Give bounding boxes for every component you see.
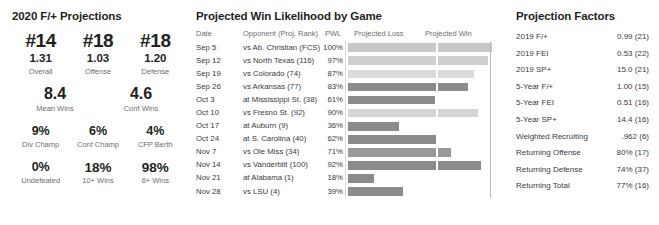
factor-label: 5-Year F/+ <box>516 82 553 91</box>
bar-segment-loss <box>348 135 436 144</box>
factor-value: .962 (6) <box>621 132 649 141</box>
bar-segment-loss <box>348 174 374 183</box>
win-likelihood-bar <box>348 83 490 92</box>
game-row[interactable]: Nov 7vs Ole Miss (34)71% <box>196 146 496 159</box>
odds-cell-cfp-berth: 4% CFP Berth <box>127 124 184 150</box>
bar-segment-win <box>438 83 468 92</box>
win-likelihood-title: Projected Win Likelihood by Game <box>196 10 496 22</box>
factor-value: 77% (16) <box>617 181 649 190</box>
factor-row: 2019 FEI0.53 (22) <box>516 47 649 64</box>
game-row[interactable]: Sep 26vs Arkansas (77)83% <box>196 80 496 93</box>
wins-cell-conf: 4.6 Conf Wins <box>98 84 184 114</box>
game-date: Sep 12 <box>196 56 221 65</box>
odds-value: 98% <box>127 160 184 175</box>
chart-axis-right <box>490 41 491 198</box>
bar-divider <box>436 56 438 65</box>
game-row[interactable]: Oct 3at Mississippi St. (38)61% <box>196 93 496 106</box>
game-date: Oct 3 <box>196 95 215 104</box>
game-pwl: 18% <box>306 173 343 182</box>
game-pwl: 97% <box>306 56 343 65</box>
game-date: Nov 28 <box>196 187 221 196</box>
game-date: Sep 26 <box>196 82 221 91</box>
bar-segment-loss <box>348 109 436 118</box>
game-row[interactable]: Oct 10vs Fresno St. (92)90% <box>196 106 496 119</box>
factor-value: 15.0 (21) <box>617 65 649 74</box>
rank-cell-offense: #18 1.03 Offense <box>69 31 126 77</box>
rank-value: #18 <box>69 31 126 51</box>
game-date: Nov 14 <box>196 160 221 169</box>
wins-row: 8.4 Mean Wins 4.6 Conf Wins <box>12 84 184 114</box>
game-opponent: vs North Texas (116) <box>243 56 314 65</box>
win-likelihood-bar <box>348 148 490 157</box>
wins-label: Conf Wins <box>98 103 184 114</box>
win-likelihood-bar <box>348 70 490 79</box>
bar-divider <box>436 43 438 52</box>
factor-label: Returning Defense <box>516 165 583 174</box>
game-date: Oct 17 <box>196 121 219 130</box>
odds-value: 4% <box>127 124 184 139</box>
game-row[interactable]: Nov 14vs Vanderbilt (100)92% <box>196 159 496 172</box>
projection-factors-panel: Projection Factors 2019 F/+0.99 (21)2019… <box>516 10 649 196</box>
rating-value: 1.31 <box>12 51 69 66</box>
win-likelihood-bar <box>348 43 490 52</box>
factor-row: 5-Year SP+14.4 (16) <box>516 113 649 130</box>
win-likelihood-bar <box>348 187 490 196</box>
bar-segment-win <box>438 148 451 157</box>
bar-segment-loss <box>348 148 436 157</box>
game-opponent: vs Vanderbilt (100) <box>243 160 308 169</box>
factor-label: Weighted Recruiting <box>516 132 588 141</box>
game-date: Nov 7 <box>196 147 216 156</box>
factor-row: 5-Year F/+1.00 (15) <box>516 80 649 97</box>
rank-value: #14 <box>12 31 69 51</box>
projection-dashboard: 2020 F/+ Projections #14 1.31 Overall #1… <box>0 0 659 225</box>
game-row[interactable]: Sep 5vs Ab. Christian (FCS)100% <box>196 41 496 54</box>
bar-segment-win <box>438 70 474 79</box>
factor-value: 1.00 (15) <box>617 82 649 91</box>
odds-label: Div Champ <box>12 139 69 150</box>
game-date: Sep 19 <box>196 69 221 78</box>
factor-row: Returning Total77% (16) <box>516 179 649 196</box>
game-row[interactable]: Nov 21at Alabama (1)18% <box>196 172 496 185</box>
game-pwl: 39% <box>306 187 343 196</box>
rating-value: 1.20 <box>127 51 184 66</box>
game-pwl: 87% <box>306 69 343 78</box>
factor-row: Returning Defense74% (37) <box>516 163 649 180</box>
rank-value: #18 <box>127 31 184 51</box>
odds-value: 0% <box>12 160 69 175</box>
game-pwl: 71% <box>306 147 343 156</box>
odds-label: Undefeated <box>12 175 69 186</box>
bar-segment-loss <box>348 187 403 196</box>
championship-odds-row: 9% Div Champ 6% Conf Champ 4% CFP Berth <box>12 124 184 150</box>
bar-segment-win <box>438 161 481 170</box>
factor-label: 2019 F/+ <box>516 32 548 41</box>
game-row[interactable]: Nov 28vs LSU (4)39% <box>196 185 496 198</box>
game-pwl: 36% <box>306 121 343 130</box>
game-pwl: 100% <box>306 43 343 52</box>
bar-divider <box>436 161 438 170</box>
game-row[interactable]: Sep 19vs Colorado (74)87% <box>196 67 496 80</box>
game-row[interactable]: Sep 12vs North Texas (116)97% <box>196 54 496 67</box>
wins-value: 4.6 <box>98 84 184 103</box>
factor-value: 74% (37) <box>617 165 649 174</box>
projections-title: 2020 F/+ Projections <box>12 10 184 22</box>
odds-cell-ten-plus-wins: 18% 10+ Wins <box>69 160 126 186</box>
odds-label: 10+ Wins <box>69 175 126 186</box>
bar-divider <box>436 148 438 157</box>
odds-cell-six-plus-wins: 98% 6+ Wins <box>127 160 184 186</box>
game-row[interactable]: Oct 24at S. Carolina (40)62% <box>196 133 496 146</box>
win-likelihood-bar <box>348 135 490 144</box>
game-date: Nov 21 <box>196 173 221 182</box>
odds-label: 6+ Wins <box>127 175 184 186</box>
game-row[interactable]: Oct 17at Auburn (9)36% <box>196 120 496 133</box>
projection-factors-title: Projection Factors <box>516 10 649 22</box>
factor-label: 5-Year SP+ <box>516 115 557 124</box>
factor-label: Returning Total <box>516 181 570 190</box>
game-date: Sep 5 <box>196 43 216 52</box>
chart-axis-left <box>345 41 346 198</box>
rank-label: Defense <box>127 66 184 77</box>
bar-segment-win <box>438 43 492 52</box>
bar-segment-loss <box>348 70 436 79</box>
rank-row: #14 1.31 Overall #18 1.03 Offense #18 1.… <box>12 31 184 77</box>
column-header-pwl: PWL <box>325 29 341 38</box>
game-table: Sep 5vs Ab. Christian (FCS)100%Sep 12vs … <box>196 41 496 198</box>
